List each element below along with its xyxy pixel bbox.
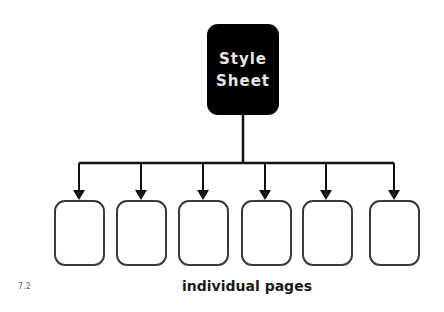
page-node-4 <box>241 200 292 266</box>
root-label-line1: Style <box>219 48 267 70</box>
page-node-3 <box>178 200 229 266</box>
root-label-line2: Sheet <box>216 70 270 92</box>
caption-container: individual pages <box>0 276 444 295</box>
page-node-5 <box>302 200 353 266</box>
style-sheet-node: Style Sheet <box>207 24 279 115</box>
arrowheads <box>73 190 400 200</box>
page-node-2 <box>116 200 167 266</box>
page-node-6 <box>369 200 420 266</box>
caption: individual pages <box>182 278 312 294</box>
page-node-1 <box>54 200 105 266</box>
